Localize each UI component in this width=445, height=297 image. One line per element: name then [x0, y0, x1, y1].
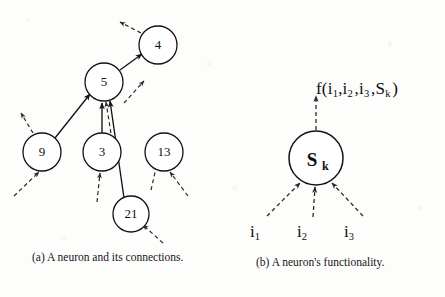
dashed-edge-into-9-from-lowerleft	[14, 172, 39, 196]
caption-panel-a: (a) A neuron and its connections.	[32, 250, 207, 266]
solid-edge-9-to-5	[55, 94, 90, 138]
node-4[interactable]: 4	[139, 26, 177, 64]
dashed-edge-out-of-9-upleft	[21, 113, 33, 133]
input-label-i2: i2	[297, 222, 307, 242]
dashed-edge-into-3-from-below	[97, 173, 100, 202]
node-21[interactable]: 21	[113, 196, 149, 232]
caption-panel-b: (b) A neuron's functionality.	[256, 255, 441, 271]
output-formula: f(i1,i2 ,i3 ,Sk )	[316, 79, 398, 99]
dashed-edge-into-21-from-lowerright	[143, 225, 163, 243]
input-arrow-i1	[267, 183, 300, 216]
node-label: 13	[158, 144, 171, 159]
solid-edge-5-to-4	[120, 54, 142, 70]
node-5[interactable]: 5	[85, 63, 123, 101]
dashed-edge-into-13-from-lowerright	[170, 172, 188, 196]
soma-node-sk[interactable]: S k	[289, 131, 343, 185]
dashed-edge-out-of-5-upright	[124, 81, 144, 103]
node-label: 9	[39, 144, 46, 159]
soma-label-sub: k	[322, 159, 329, 173]
node-13[interactable]: 13	[145, 133, 183, 171]
figure-container: 4 5 9 3 13 21	[0, 0, 445, 297]
soma-label-main: S	[307, 149, 318, 170]
input-arrow-i2	[313, 187, 315, 217]
input-arrow-i3	[332, 183, 363, 216]
dashed-edge-out-of-4-upleft	[120, 22, 141, 33]
node-label: 3	[99, 144, 106, 159]
node-label: 4	[155, 37, 162, 52]
node-3[interactable]: 3	[83, 133, 121, 171]
node-label: 21	[125, 206, 138, 221]
node-9[interactable]: 9	[23, 133, 61, 171]
input-label-i3: i3	[344, 222, 354, 242]
node-label: 5	[101, 74, 108, 89]
input-label-i1: i1	[250, 222, 260, 242]
